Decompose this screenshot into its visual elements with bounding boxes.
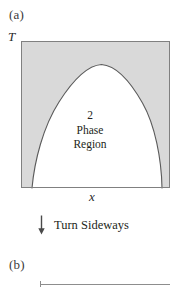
- panel-label-b: (b): [9, 258, 25, 271]
- y-axis-label: T: [8, 30, 15, 43]
- panel-label-a: (a): [9, 8, 24, 21]
- region-label-line-3: Region: [55, 137, 125, 152]
- phase-diagram-figure: (a) T 2 Phase Region x Turn Sideways (b): [0, 0, 178, 287]
- region-label-line-1: 2: [55, 108, 125, 123]
- arrow-down-icon: [36, 215, 47, 235]
- region-label-line-2: Phase: [55, 123, 125, 138]
- turn-sideways-label: Turn Sideways: [54, 219, 129, 232]
- x-axis-label: x: [89, 190, 95, 203]
- two-phase-region-label: 2 Phase Region: [55, 108, 125, 152]
- panel-b-axis-line: [40, 284, 170, 285]
- turn-sideways-annotation: Turn Sideways: [36, 215, 129, 235]
- panel-b-plot-stub: [28, 281, 173, 287]
